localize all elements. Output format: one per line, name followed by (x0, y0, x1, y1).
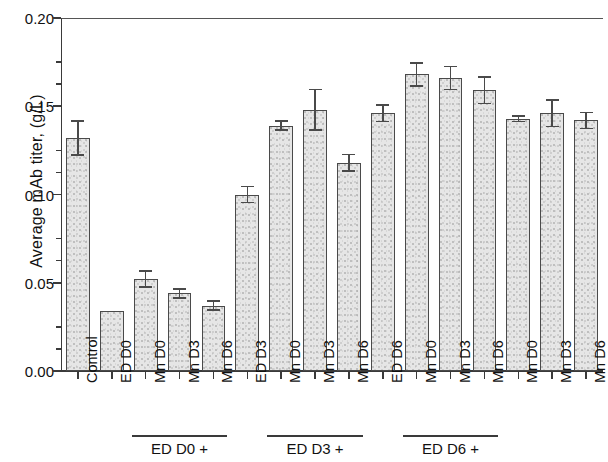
error-bar-cap-top (410, 62, 423, 64)
x-category-label: Mn D6 (219, 340, 235, 383)
error-bar-cap-top (275, 120, 288, 122)
x-category-label: ED D0 (118, 340, 134, 383)
x-category-label: Mn D0 (524, 340, 540, 383)
error-bar (206, 300, 220, 311)
error-bar-cap-top (173, 288, 186, 290)
error-bar-cap-bottom (478, 103, 491, 105)
x-axis-tick (247, 371, 249, 379)
error-bar-cap-bottom (444, 89, 457, 91)
error-bar (139, 270, 153, 288)
bar[interactable] (506, 119, 530, 371)
error-bar (240, 186, 254, 204)
y-tick-label: 0.05 (8, 274, 54, 291)
error-bar-cap-bottom (512, 121, 525, 123)
error-bar (579, 112, 593, 130)
x-category-label: Mn D3 (186, 340, 202, 383)
error-bar-cap-top (478, 76, 491, 78)
y-minor-tick (56, 238, 61, 240)
y-tick-label: 0.10 (8, 186, 54, 203)
x-category-label: Mn D3 (457, 340, 473, 383)
bar[interactable] (540, 113, 564, 371)
y-minor-tick (56, 150, 61, 152)
error-bar (342, 154, 356, 172)
error-bar-stem (585, 112, 587, 130)
y-tick-label: 0.15 (8, 98, 54, 115)
error-bar-cap-top (309, 89, 322, 91)
error-bar-cap-bottom (241, 202, 254, 204)
error-bar-cap-top (444, 66, 457, 68)
bar[interactable] (405, 74, 429, 371)
error-bar-cap-bottom (410, 85, 423, 87)
x-category-label: Mn D6 (490, 340, 506, 383)
y-major-tick (53, 17, 61, 19)
x-axis-tick (585, 371, 587, 379)
error-bar-stem (551, 99, 553, 127)
y-tick-label: 0.20 (8, 10, 54, 27)
error-bar-stem (484, 76, 486, 104)
y-minor-tick (56, 83, 61, 85)
bar[interactable] (303, 110, 327, 371)
error-bar-cap-bottom (275, 129, 288, 131)
x-axis-tick (382, 371, 384, 379)
x-category-label: Mn D0 (423, 340, 439, 383)
error-bar (274, 120, 288, 131)
x-axis-tick (551, 371, 553, 379)
y-minor-tick (56, 172, 61, 174)
x-category-label: Mn D0 (152, 340, 168, 383)
x-axis-tick (213, 371, 215, 379)
x-category-label: ED D3 (253, 340, 269, 383)
x-axis-tick (145, 371, 147, 379)
x-axis-tick (280, 371, 282, 379)
y-axis-tick-labels: 0.000.050.100.150.20 (6, 0, 54, 462)
x-axis-tick (450, 371, 452, 379)
bar[interactable] (269, 126, 293, 371)
group-bracket-label: ED D6 + (422, 440, 479, 457)
error-bar (477, 76, 491, 104)
error-bar-stem (348, 154, 350, 172)
error-bar-cap-bottom (173, 297, 186, 299)
x-axis-tick (484, 371, 486, 379)
x-category-label: Mn D3 (558, 340, 574, 383)
error-bar-cap-top (139, 270, 152, 272)
group-bracket-line (267, 435, 362, 437)
x-axis-tick (348, 371, 350, 379)
error-bar-cap-top (342, 154, 355, 156)
error-bar-cap-bottom (546, 126, 559, 128)
x-axis-tick (77, 371, 79, 379)
x-axis-tick (518, 371, 520, 379)
y-major-tick (53, 370, 61, 372)
error-bar-stem (382, 104, 384, 122)
error-bar-stem (247, 186, 249, 204)
error-bar-cap-bottom (207, 309, 220, 311)
group-bracket-label: ED D0 + (151, 440, 208, 457)
bar[interactable] (371, 113, 395, 371)
error-bar-stem (416, 62, 418, 87)
error-bar-cap-bottom (309, 129, 322, 131)
x-category-label: Mn D6 (592, 340, 608, 383)
x-axis-tick (416, 371, 418, 379)
error-bar-stem (450, 66, 452, 91)
error-bar (511, 115, 525, 122)
error-bar (376, 104, 390, 122)
y-tick-label: 0.00 (8, 363, 54, 380)
error-bar (308, 89, 322, 131)
error-bar-cap-bottom (376, 121, 389, 123)
error-bar (173, 288, 187, 299)
error-bar-stem (77, 120, 79, 155)
error-bar (71, 120, 85, 155)
group-bracket-line (403, 435, 498, 437)
bar[interactable] (574, 120, 598, 371)
x-category-label: Control (84, 336, 100, 383)
group-bracket-label: ED D3 + (287, 440, 344, 457)
error-bar-stem (145, 270, 147, 288)
x-axis-tick (179, 371, 181, 379)
bar[interactable] (473, 90, 497, 371)
y-minor-tick (56, 348, 61, 350)
error-bar-cap-bottom (139, 286, 152, 288)
bar[interactable] (439, 78, 463, 371)
error-bar (545, 99, 559, 127)
y-minor-tick (56, 61, 61, 63)
x-category-label: Mn D3 (321, 340, 337, 383)
error-bar-cap-top (207, 300, 220, 302)
